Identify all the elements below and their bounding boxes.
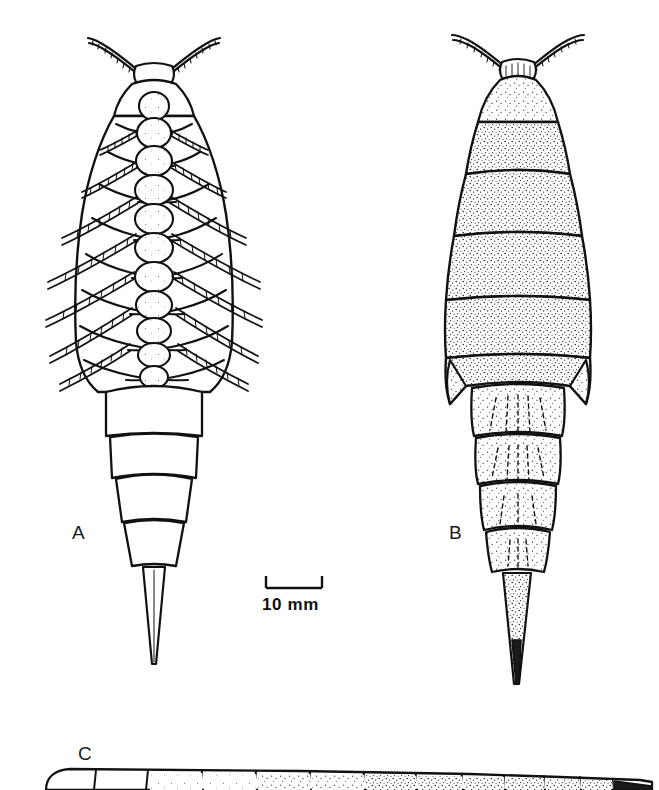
scale-bar-bracket [262, 574, 358, 594]
panel-label-a: A [72, 523, 85, 542]
panel-label-b: B [449, 523, 462, 542]
panel-a-pleonite-1 [106, 386, 202, 436]
scale-bar: 10 mm [262, 574, 358, 615]
panel-a-pleonite-4 [124, 520, 184, 566]
panel-a-pleonite-3 [116, 475, 192, 523]
figure-plate: A B C 10 mm [0, 0, 659, 790]
panel-b-tergite-4 [445, 296, 591, 358]
figure-illustration [0, 0, 659, 790]
panel-a-pleonite-2 [110, 434, 198, 479]
panel-label-c: C [78, 744, 92, 763]
panel-b-tergite-2 [454, 170, 582, 236]
panel-b-tergite-1 [466, 122, 570, 174]
panel-b-tergite-3 [446, 232, 590, 300]
scale-bar-label: 10 mm [262, 595, 358, 615]
